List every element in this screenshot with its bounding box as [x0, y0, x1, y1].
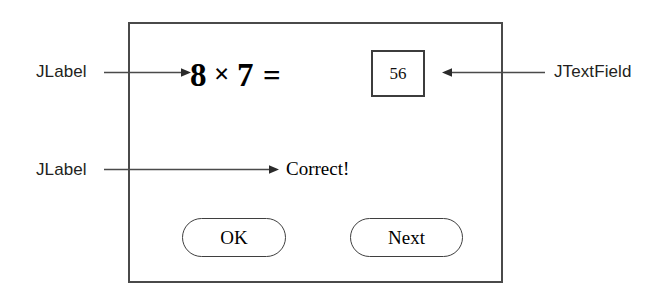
answer-field-value: 56 [390, 64, 407, 84]
next-button[interactable]: Next [350, 218, 463, 257]
swing-component-callout-figure: 8 × 7 = 56 Correct! OK Next JLabel JText… [0, 0, 671, 294]
operand-right: 7 [237, 59, 254, 92]
ok-button[interactable]: OK [182, 218, 286, 257]
answer-text-field[interactable]: 56 [371, 50, 425, 97]
operand-left: 8 [190, 59, 207, 92]
feedback-label: Correct! [286, 158, 349, 180]
next-button-label: Next [388, 227, 425, 249]
ok-button-label: OK [220, 227, 247, 249]
question-label: 8 × 7 = [190, 53, 281, 97]
callout-label-jtextfield: JTextField [554, 62, 632, 82]
callout-label-jlabel-feedback: JLabel [36, 160, 87, 180]
multiplication-operator: × [207, 61, 237, 88]
callout-label-jlabel-question: JLabel [36, 62, 87, 82]
equals-operator: = [254, 60, 281, 91]
